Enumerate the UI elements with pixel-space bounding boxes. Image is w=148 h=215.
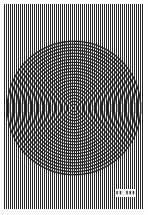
page-margin-top bbox=[0, 0, 148, 4]
page-margin-left bbox=[0, 0, 4, 215]
specimen-label: ▮▮ ▮▮▮ bbox=[115, 189, 136, 197]
page-canvas: ▮▮ ▮▮▮ bbox=[0, 0, 148, 215]
page-margin-bottom bbox=[0, 209, 148, 215]
page-margin-right bbox=[144, 0, 148, 215]
moire-pattern-image bbox=[0, 0, 148, 215]
specimen-label-text: ▮▮ ▮▮▮ bbox=[116, 190, 136, 195]
